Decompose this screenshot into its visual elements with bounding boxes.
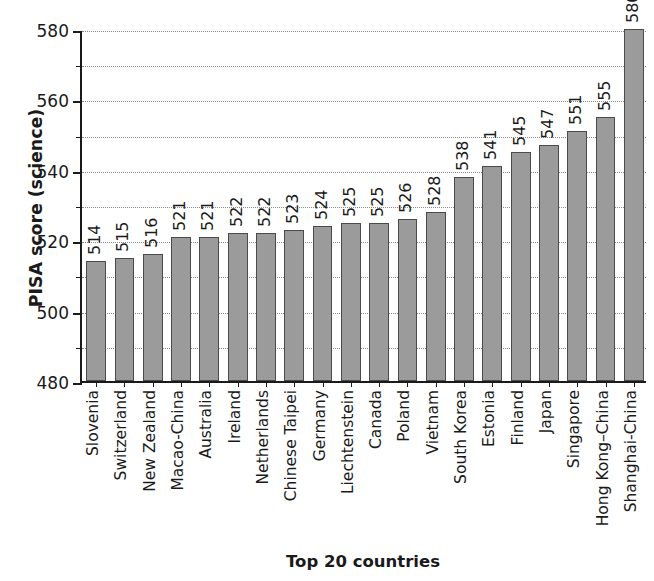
- bar-value-label: 523: [285, 193, 301, 224]
- bar[interactable]: [398, 219, 418, 381]
- bar[interactable]: [199, 237, 219, 381]
- bar[interactable]: [284, 230, 304, 381]
- x-tick: [606, 381, 607, 387]
- x-category-label: Germany: [313, 390, 329, 461]
- bar-value-label: 521: [172, 200, 188, 231]
- bar-value-label: 555: [597, 80, 613, 111]
- bar-slot: 547Japan: [539, 31, 559, 381]
- x-tick: [436, 381, 437, 387]
- y-tick-label: 480: [9, 373, 69, 393]
- bar-slot: 522Netherlands: [256, 31, 276, 381]
- y-tick-major: [73, 383, 82, 385]
- x-category-label: Shanghai-China: [624, 390, 640, 512]
- bar-slot: 523Chinese Taipei: [284, 31, 304, 381]
- bar[interactable]: [143, 254, 163, 381]
- bar-value-label: 514: [87, 225, 103, 256]
- y-tick-major: [73, 242, 82, 244]
- pisa-science-bar-chart: PISA score (science) 480500520540560580 …: [0, 0, 654, 581]
- bar-slot: 551Singapore: [567, 31, 587, 381]
- y-tick-label: 520: [9, 232, 69, 252]
- x-tick: [153, 381, 154, 387]
- bar-slot: 528Vietnam: [426, 31, 446, 381]
- x-category-label: Switzerland: [115, 390, 131, 480]
- bar-slot: 526Poland: [398, 31, 418, 381]
- x-category-label: New Zealand: [143, 390, 159, 492]
- x-tick: [407, 381, 408, 387]
- x-tick: [323, 381, 324, 387]
- bar[interactable]: [341, 223, 361, 381]
- bar-value-label: 522: [257, 197, 273, 228]
- bar-value-label: 526: [398, 183, 414, 214]
- bar-slot: 522Ireland: [228, 31, 248, 381]
- bar-value-label: 538: [455, 140, 471, 171]
- bar-value-label: 516: [144, 218, 160, 249]
- x-tick: [379, 381, 380, 387]
- bar[interactable]: [228, 233, 248, 381]
- x-category-label: Japan: [539, 390, 555, 433]
- bar-slot: 538South Korea: [454, 31, 474, 381]
- x-tick: [634, 381, 635, 387]
- x-category-label: South Korea: [454, 390, 470, 484]
- bar[interactable]: [313, 226, 333, 381]
- x-tick: [266, 381, 267, 387]
- bar[interactable]: [511, 152, 531, 381]
- bar[interactable]: [426, 212, 446, 381]
- x-tick: [577, 381, 578, 387]
- x-category-label: Liechtenstein: [341, 390, 357, 494]
- bar-slot: 541Estonia: [482, 31, 502, 381]
- x-category-label: Finland: [511, 390, 527, 445]
- bar-value-label: 515: [115, 221, 131, 252]
- bar[interactable]: [369, 223, 389, 381]
- x-tick: [181, 381, 182, 387]
- x-category-label: Slovenia: [87, 390, 103, 456]
- bar[interactable]: [539, 145, 559, 381]
- x-category-label: Australia: [200, 390, 216, 459]
- x-tick: [521, 381, 522, 387]
- x-tick: [238, 381, 239, 387]
- y-tick-label: 540: [9, 162, 69, 182]
- bar[interactable]: [482, 166, 502, 381]
- y-tick-label: 500: [9, 303, 69, 323]
- bar-slot: 515Switzerland: [115, 31, 135, 381]
- bar-slot: 516New Zealand: [143, 31, 163, 381]
- x-tick: [492, 381, 493, 387]
- x-tick: [549, 381, 550, 387]
- bar-slot: 521Australia: [199, 31, 219, 381]
- bar-value-label: 580: [625, 0, 641, 23]
- bar[interactable]: [567, 131, 587, 381]
- bar-slot: 525Liechtenstein: [341, 31, 361, 381]
- bar[interactable]: [596, 117, 616, 381]
- bar-value-label: 541: [483, 130, 499, 161]
- bar[interactable]: [624, 29, 644, 381]
- bar-value-label: 524: [314, 190, 330, 221]
- bar-slot: 555Hong Kong–China: [596, 31, 616, 381]
- y-tick-label: 560: [9, 91, 69, 111]
- x-tick: [124, 381, 125, 387]
- bar[interactable]: [115, 258, 135, 381]
- y-tick-major: [73, 31, 82, 33]
- x-tick: [351, 381, 352, 387]
- bar-value-label: 547: [540, 109, 556, 140]
- bar-slot: 545Finland: [511, 31, 531, 381]
- bar[interactable]: [171, 237, 191, 381]
- y-tick-major: [73, 101, 82, 103]
- x-tick: [209, 381, 210, 387]
- bar-slot: 525Canada: [369, 31, 389, 381]
- plot-area: 480500520540560580 514Slovenia515Switzer…: [80, 31, 646, 383]
- bar-slot: 524Germany: [313, 31, 333, 381]
- x-tick: [294, 381, 295, 387]
- bar-value-label: 525: [370, 186, 386, 217]
- bar[interactable]: [454, 177, 474, 381]
- bar[interactable]: [256, 233, 276, 381]
- bar-slot: 521Macao-China: [171, 31, 191, 381]
- x-category-label: Ireland: [228, 390, 244, 444]
- bar-value-label: 525: [342, 186, 358, 217]
- x-category-label: Vietnam: [426, 390, 442, 455]
- bar-slot: 580Shanghai-China: [624, 31, 644, 381]
- x-category-label: Hong Kong–China: [596, 390, 612, 526]
- bar-value-label: 545: [512, 116, 528, 147]
- bar-value-label: 528: [427, 176, 443, 207]
- bar[interactable]: [86, 261, 106, 381]
- bar-value-label: 521: [200, 200, 216, 231]
- x-axis-title: Top 20 countries: [80, 552, 646, 571]
